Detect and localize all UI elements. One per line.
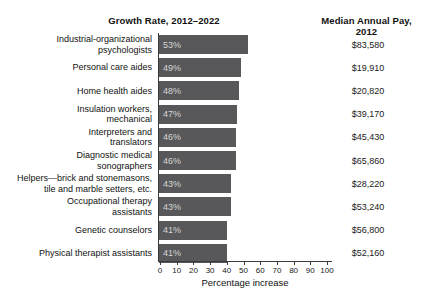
x-axis-line: [158, 261, 332, 262]
chart-row: Interpreters andtranslators46%$45,430: [0, 126, 422, 149]
growth-rate-bar: 41%: [159, 244, 227, 263]
median-pay-value: $20,820: [323, 79, 413, 102]
median-pay-value: $56,800: [323, 219, 413, 242]
category-label: Helpers—brick and stonemasons,tile and m…: [0, 172, 152, 195]
median-pay-value: $65,860: [323, 149, 413, 172]
growth-rate-bar: 53%: [159, 35, 248, 54]
y-axis-line: [158, 33, 159, 262]
category-label: Physical therapist assistants: [0, 242, 152, 265]
x-axis-tick: [277, 262, 278, 265]
category-label: Insulation workers,mechanical: [0, 103, 152, 126]
chart-row: Industrial-organizationalpsychologists53…: [0, 33, 422, 56]
bar-value-label: 41%: [159, 248, 181, 258]
x-axis-tick: [294, 262, 295, 265]
median-pay-value: $52,160: [323, 242, 413, 265]
x-axis-tick: [310, 262, 311, 265]
chart-row: Home health aides48%$20,820: [0, 79, 422, 102]
x-axis-tick-label: 100: [315, 266, 339, 275]
x-axis-tick: [244, 262, 245, 265]
median-pay-value: $53,240: [323, 195, 413, 218]
category-label: Occupational therapyassistants: [0, 195, 152, 218]
x-axis-tick: [177, 262, 178, 265]
chart-row: Insulation workers,mechanical47%$39,170: [0, 103, 422, 126]
growth-rate-bar: 47%: [159, 105, 237, 124]
chart-title-growth-rate: Growth Rate, 2012–2022: [59, 15, 269, 26]
chart-row: Personal care aides49%$19,910: [0, 56, 422, 79]
bar-value-label: 41%: [159, 225, 181, 235]
bar-value-label: 43%: [159, 179, 181, 189]
chart-row: Diagnostic medicalsonographers46%$65,860: [0, 149, 422, 172]
median-pay-value: $45,430: [323, 126, 413, 149]
growth-rate-bar: 41%: [159, 221, 227, 240]
bar-value-label: 47%: [159, 109, 181, 119]
x-axis-tick: [327, 262, 328, 265]
median-pay-value: $19,910: [323, 56, 413, 79]
x-axis-tick: [227, 262, 228, 265]
category-label: Interpreters andtranslators: [0, 126, 152, 149]
growth-rate-bar: 43%: [159, 197, 231, 216]
growth-rate-bar: 46%: [159, 151, 236, 170]
category-label: Genetic counselors: [0, 219, 152, 242]
x-axis-title: Percentage increase: [159, 277, 331, 288]
bar-chart-figure: Growth Rate, 2012–2022 Median Annual Pay…: [0, 0, 422, 303]
growth-rate-bar: 49%: [159, 58, 241, 77]
bar-value-label: 46%: [159, 132, 181, 142]
bar-value-label: 48%: [159, 86, 181, 96]
category-label: Home health aides: [0, 79, 152, 102]
bar-value-label: 49%: [159, 63, 181, 73]
median-pay-value: $39,170: [323, 103, 413, 126]
growth-rate-bar: 46%: [159, 128, 236, 147]
x-axis-tick: [210, 262, 211, 265]
category-label: Industrial-organizationalpsychologists: [0, 33, 152, 56]
growth-rate-bar: 48%: [159, 81, 239, 100]
category-label: Diagnostic medicalsonographers: [0, 149, 152, 172]
chart-row: Helpers—brick and stonemasons,tile and m…: [0, 172, 422, 195]
chart-row: Genetic counselors41%$56,800: [0, 219, 422, 242]
growth-rate-bar: 43%: [159, 174, 231, 193]
median-pay-value: $83,580: [323, 33, 413, 56]
bar-value-label: 46%: [159, 156, 181, 166]
median-pay-value: $28,220: [323, 172, 413, 195]
bar-value-label: 53%: [159, 40, 181, 50]
x-axis-tick: [160, 262, 161, 265]
bar-value-label: 43%: [159, 202, 181, 212]
chart-row: Occupational therapyassistants43%$53,240: [0, 195, 422, 218]
category-label: Personal care aides: [0, 56, 152, 79]
x-axis-tick: [260, 262, 261, 265]
x-axis-tick: [193, 262, 194, 265]
